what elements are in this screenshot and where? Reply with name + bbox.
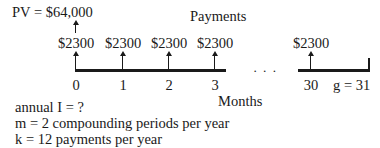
period-label: 0 [72, 77, 79, 93]
present-value-label: PV = $64,000 [12, 4, 93, 20]
payment-amount: $2300 [58, 35, 94, 51]
timeline-end-tick [368, 58, 370, 71]
payment-amount: $2300 [197, 35, 233, 51]
payment-up-arrow-icon [168, 55, 169, 70]
payment-amount: $2300 [105, 35, 141, 51]
payment-amount: $2300 [151, 35, 187, 51]
payment-up-arrow-icon [214, 55, 215, 70]
period-label: 3 [211, 77, 218, 93]
timeline-segment-end [298, 69, 370, 72]
period-label: 1 [119, 77, 126, 93]
pv-up-arrow-icon [75, 24, 76, 33]
payment-up-arrow-icon [75, 55, 76, 70]
note-compounding-periods: m = 2 compounding periods per year [15, 115, 229, 131]
timeline-segment-start [75, 69, 226, 72]
payment-up-arrow-icon [310, 55, 311, 70]
note-payments-per-year: k = 12 payments per year [15, 131, 162, 147]
payments-heading: Payments [190, 8, 246, 24]
timeline-ellipsis: · · · [253, 63, 278, 79]
period-label: 2 [165, 77, 172, 93]
payment-amount: $2300 [293, 35, 329, 51]
period-label: 30 [304, 77, 319, 93]
payment-up-arrow-icon [122, 55, 123, 70]
note-annual-rate: annual I = ? [15, 99, 84, 115]
months-axis-label: Months [218, 93, 262, 109]
final-period-label: g = 31 [333, 77, 370, 93]
